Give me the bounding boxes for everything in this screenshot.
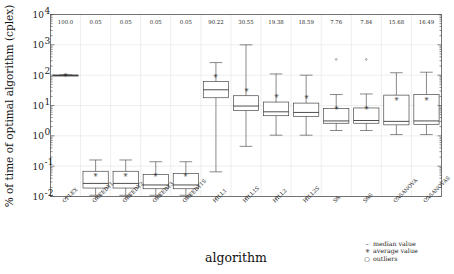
- legend: –median value✳average value○outliers: [364, 240, 418, 262]
- boxplot-hill2s: ✳: [294, 75, 319, 135]
- svg-text:2: 2: [45, 66, 51, 76]
- average-marker: ✳: [213, 72, 218, 79]
- top-value-label: 0.05: [180, 19, 193, 25]
- legend-label: median value: [373, 240, 416, 247]
- svg-text:10: 10: [33, 162, 45, 172]
- top-value-label: 7.76: [330, 19, 343, 25]
- top-value-label: 15.68: [389, 19, 405, 25]
- average-marker: ✳: [63, 71, 68, 78]
- box-iqr: [294, 103, 319, 116]
- svg-text:10: 10: [33, 40, 45, 50]
- svg-text:3: 3: [45, 36, 51, 46]
- y-tick-label: 100: [33, 127, 51, 141]
- top-value-label: 18.59: [298, 19, 314, 25]
- y-tick-label: 101: [33, 97, 51, 111]
- outlier-point: [335, 59, 337, 61]
- svg-text:4: 4: [45, 6, 51, 16]
- top-value-label: 0.05: [150, 19, 163, 25]
- average-marker: ✳: [153, 171, 158, 178]
- boxplot-casanova: ✳: [384, 73, 409, 135]
- y-tick-label: 102: [33, 66, 51, 80]
- average-marker: ✳: [334, 104, 339, 111]
- boxplot-figure: ✳✳✳✳✳✳✳✳✳✳✳✳✳ 100.00.050.050.050.0590.22…: [0, 0, 454, 274]
- x-tick-label: HILL1S: [241, 185, 260, 204]
- svg-text:-2: -2: [45, 188, 54, 198]
- chart-canvas: ✳✳✳✳✳✳✳✳✳✳✳✳✳ 100.00.050.050.050.0590.22…: [0, 0, 454, 274]
- y-tick-label: 10-2: [33, 188, 54, 202]
- boxplot-cplex: ✳: [53, 71, 78, 78]
- x-tick-label: SAS: [362, 191, 374, 203]
- x-tick-label: CPLEX: [61, 186, 79, 204]
- legend-label: outliers: [373, 255, 397, 262]
- legend-symbol: ○: [364, 255, 370, 262]
- box-iqr: [263, 102, 288, 116]
- top-value-label: 90.22: [208, 19, 223, 25]
- y-tick-label: 103: [33, 36, 51, 50]
- legend-symbol: ✳: [365, 247, 370, 254]
- x-tick-label: HILL2: [272, 187, 288, 203]
- svg-text:10: 10: [33, 131, 45, 141]
- average-marker: ✳: [244, 86, 249, 93]
- average-marker: ✳: [123, 171, 128, 178]
- outlier-point: [365, 59, 367, 61]
- boxplot-sas: ✳: [354, 59, 379, 131]
- average-marker: ✳: [424, 95, 429, 102]
- svg-text:0: 0: [45, 127, 51, 137]
- svg-text:-1: -1: [45, 157, 54, 167]
- average-marker: ✳: [183, 171, 188, 178]
- y-axis-title: % of time of optimal algorithm (cplex): [3, 5, 15, 208]
- boxplot-hill2: ✳: [263, 74, 288, 135]
- x-tick-label: CASANOVAS: [422, 174, 451, 203]
- svg-text:10: 10: [33, 192, 45, 202]
- top-value-label: 19.38: [268, 19, 284, 25]
- svg-text:10: 10: [33, 10, 45, 20]
- x-tick-label: SA: [332, 194, 342, 204]
- average-marker: ✳: [394, 95, 399, 102]
- boxplot-hill1: ✳: [203, 63, 228, 172]
- average-marker: ✳: [93, 171, 98, 178]
- box-iqr: [233, 96, 258, 111]
- average-marker: ✳: [364, 104, 369, 111]
- top-value-label: 0.05: [90, 19, 103, 25]
- x-tick-label: CASANOVA: [392, 177, 419, 204]
- x-tick-label: HILL1: [211, 187, 227, 203]
- svg-text:10: 10: [33, 71, 45, 81]
- top-value-label: 100.0: [58, 19, 74, 25]
- boxplot-hill1s: ✳: [233, 45, 258, 147]
- x-tick-label: HILL2S: [302, 185, 321, 204]
- boxplot-casanovas: ✳: [414, 72, 439, 134]
- top-value-label: 30.55: [238, 19, 254, 25]
- legend-symbol: –: [365, 240, 368, 247]
- x-axis-title: algorithm: [205, 250, 267, 265]
- top-value-label: 7.84: [360, 19, 373, 25]
- average-marker: ✳: [274, 92, 279, 99]
- svg-text:10: 10: [33, 101, 45, 111]
- average-marker: ✳: [304, 93, 309, 100]
- top-value-label: 16.49: [419, 19, 435, 25]
- y-tick-label: 104: [33, 6, 51, 20]
- svg-text:1: 1: [45, 97, 51, 107]
- top-value-labels: 100.00.050.050.050.0590.2230.5519.3818.5…: [58, 19, 435, 25]
- top-value-label: 0.05: [120, 19, 133, 25]
- boxplot-sa: ✳: [324, 59, 349, 131]
